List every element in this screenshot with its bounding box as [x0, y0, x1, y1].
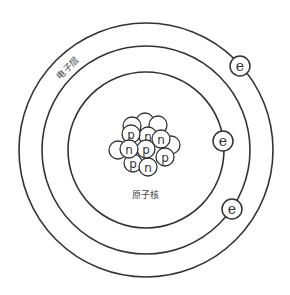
- atom-diagram: 电子层 npnpnpnp 原子核 eee: [0, 0, 290, 295]
- proton: p: [137, 140, 155, 158]
- nucleus-label: 原子核: [132, 189, 159, 200]
- neutron: n: [120, 140, 138, 158]
- proton: p: [156, 148, 174, 166]
- electron-symbol: e: [219, 133, 227, 149]
- electron-symbol: e: [236, 58, 244, 74]
- neutron-symbol: n: [157, 133, 165, 147]
- neutron-symbol: n: [125, 143, 133, 157]
- proton-symbol: p: [129, 157, 137, 171]
- electron-symbol: e: [228, 201, 236, 217]
- nucleus: npnpnpnp: [109, 113, 180, 176]
- proton-symbol: p: [142, 143, 150, 157]
- proton-symbol: p: [161, 151, 169, 165]
- neutron-symbol: n: [144, 161, 152, 175]
- electron: e: [222, 199, 242, 219]
- electron: e: [230, 56, 250, 76]
- electron: e: [213, 131, 233, 151]
- electrons: eee: [213, 56, 250, 219]
- neutron: n: [139, 158, 157, 176]
